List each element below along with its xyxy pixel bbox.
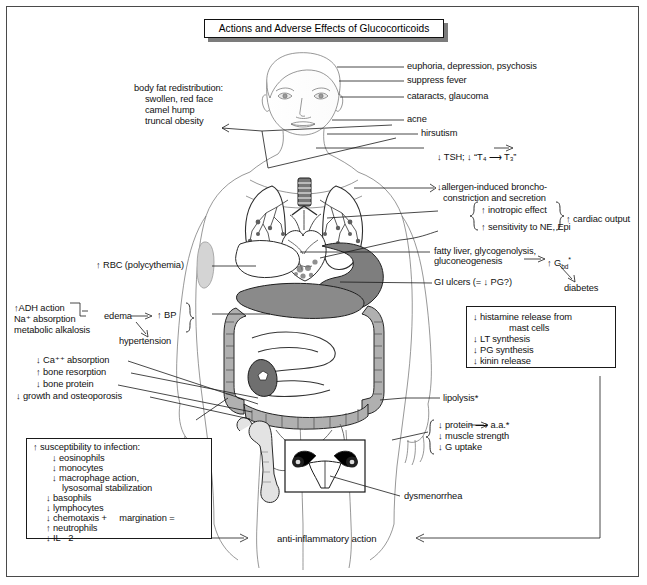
label-body-fat-1: swollen, red face: [145, 94, 213, 105]
label-na-absorption: Na⁺ absorption: [14, 314, 75, 325]
blood-glucose-text: ↑ G: [547, 258, 561, 268]
label-histamine-2: mast cells: [509, 323, 549, 334]
label-rbc: ↑ RBC (polycythemia): [96, 260, 184, 271]
label-bone-resorption: ↑ bone resorption: [36, 367, 106, 378]
label-gi-ulcers: GI ulcers (= ↓ PG?): [434, 277, 512, 288]
blood-glucose-star: *: [568, 256, 571, 263]
label-muscle-strength: ↓ muscle strength: [438, 431, 509, 442]
label-lipolysis: lipolysis*: [443, 393, 478, 404]
label-hirsutism: hirsutism: [421, 128, 457, 139]
label-suppress-fever: suppress fever: [407, 75, 467, 86]
label-infection-header: ↑ susceptibility to infection:: [33, 442, 140, 453]
label-g-uptake: ↓ G uptake: [438, 442, 482, 453]
label-histamine-1: ↓ histamine release from: [473, 312, 572, 323]
label-diabetes: diabetes: [564, 283, 598, 294]
label-bone-protein: ↓ bone protein: [36, 379, 94, 390]
thyroid-text: ↓ TSH; ↓ “T₄ ⟶ T₃”: [437, 152, 516, 162]
label-euphoria: euphoria, depression, psychosis: [407, 61, 537, 72]
blood-glucose-sub: bd: [561, 263, 568, 270]
label-gluconeogenesis: gluconeogenesis: [434, 256, 502, 267]
label-thyroid: ↓ TSH; ↓ “T₄ ⟶ T₃”: [427, 141, 516, 175]
label-anti-inflammatory: anti-inflammatory action: [277, 533, 376, 544]
label-inotropic: ↑ inotropic effect: [481, 205, 547, 216]
label-body-fat-3: truncal obesity: [145, 116, 203, 127]
label-cardiac-output: ↑ cardiac output: [566, 214, 630, 225]
label-adh-action: ↑ADH action: [14, 303, 65, 314]
label-body-fat-header: body fat redistribution:: [134, 83, 223, 94]
label-ca-absorption: ↓ Ca⁺⁺ absorption: [36, 355, 109, 366]
diagram-page: Actions and Adverse Effects of Glucocort…: [0, 0, 647, 585]
label-il2: ↓ IL - 2: [46, 533, 73, 544]
label-edema: edema: [104, 311, 132, 322]
label-bronchoconstriction-2: constriction and secretion: [443, 193, 546, 204]
label-growth-osteoporosis: ↓ growth and osteoporosis: [16, 391, 122, 402]
label-kinin-release: ↓ kinin release: [473, 356, 531, 367]
label-lt-synthesis: ↓ LT synthesis: [473, 334, 530, 345]
label-hypertension: hypertension: [119, 336, 171, 347]
diagram-title: Actions and Adverse Effects of Glucocort…: [204, 19, 444, 38]
label-cataracts: cataracts, glaucoma: [407, 91, 488, 102]
label-sensitivity-ne-epi: ↑ sensitivity to NE, Epi: [481, 222, 571, 233]
label-blood-glucose: ↑ Gbd*: [547, 254, 571, 272]
label-body-fat-2: camel hump: [145, 105, 195, 116]
label-dysmenorrhea: dysmenorrhea: [404, 491, 462, 502]
label-pg-synthesis: ↓ PG synthesis: [473, 345, 534, 356]
label-bronchoconstriction-1: ↓allergen-induced broncho-: [437, 182, 547, 193]
label-bp: ↑ BP: [157, 310, 176, 321]
label-protein-aa: ↓ protein ⟶ a.a.*: [438, 420, 509, 431]
label-acne: acne: [407, 114, 427, 125]
label-metabolic-alkalosis: metabolic alkalosis: [14, 325, 90, 336]
